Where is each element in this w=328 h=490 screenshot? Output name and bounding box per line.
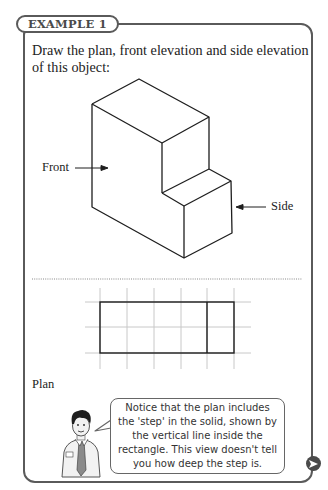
plan-note: Notice that the plan includes the 'step'… — [117, 401, 278, 472]
front-label: Front — [42, 160, 69, 175]
plan-label: Plan — [32, 377, 54, 392]
speech-bubble-tail — [95, 420, 111, 431]
side-label: Side — [271, 199, 293, 214]
teacher-character-icon — [62, 410, 100, 477]
side-arrow-icon — [236, 205, 266, 210]
next-arrow-icon — [309, 460, 318, 468]
speech-bubble: Notice that the plan includes the 'step'… — [110, 398, 285, 474]
next-page-button[interactable] — [306, 456, 321, 471]
plan-grid — [85, 288, 251, 369]
